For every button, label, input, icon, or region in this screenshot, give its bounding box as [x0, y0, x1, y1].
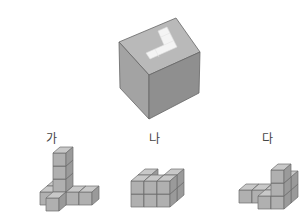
- option-shape-b: [120, 140, 195, 220]
- large-cube-diagram: [0, 0, 306, 130]
- cube-front-face: [157, 194, 170, 207]
- cube-front-face: [131, 181, 144, 194]
- cube-front-face: [53, 179, 66, 192]
- option-shape-c: [225, 140, 306, 220]
- cube-front-face: [66, 192, 79, 205]
- cube-front-face: [239, 190, 252, 203]
- cube-front-face: [53, 166, 66, 179]
- cube-front-face: [144, 181, 157, 194]
- cube-front-face: [258, 196, 271, 209]
- cube-front-face: [131, 194, 144, 207]
- option-shape-a: [18, 140, 113, 220]
- cube-front-face: [53, 153, 66, 166]
- cube-front-face: [157, 181, 170, 194]
- cube-front-face: [271, 170, 284, 183]
- cube-front-face: [79, 192, 92, 205]
- cube-front-face: [46, 198, 59, 211]
- cube-front-face: [144, 194, 157, 207]
- cube-front-face: [271, 183, 284, 196]
- cube-front-face: [271, 196, 284, 209]
